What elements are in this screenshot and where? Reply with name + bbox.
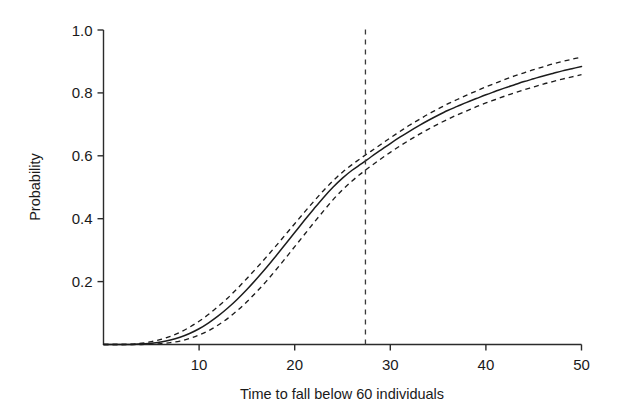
x-tick-label: 10	[191, 356, 208, 373]
chart-figure: 0.20.40.60.81.0 1020304050 Time to fall …	[0, 0, 617, 416]
x-tick-label: 40	[478, 356, 495, 373]
y-tick-label: 1.0	[72, 22, 93, 39]
y-tick-label: 0.6	[72, 147, 93, 164]
chart-background	[0, 0, 617, 416]
x-tick-label: 30	[382, 356, 399, 373]
x-axis-title: Time to fall below 60 individuals	[240, 386, 444, 402]
y-tick-label: 0.2	[72, 273, 93, 290]
x-tick-label: 50	[573, 356, 590, 373]
probability-curve-chart: 0.20.40.60.81.0 1020304050 Time to fall …	[0, 0, 617, 416]
x-tick-label: 20	[286, 356, 303, 373]
y-tick-label: 0.4	[72, 210, 93, 227]
y-axis-title: Probability	[27, 152, 43, 220]
y-tick-label: 0.8	[72, 84, 93, 101]
